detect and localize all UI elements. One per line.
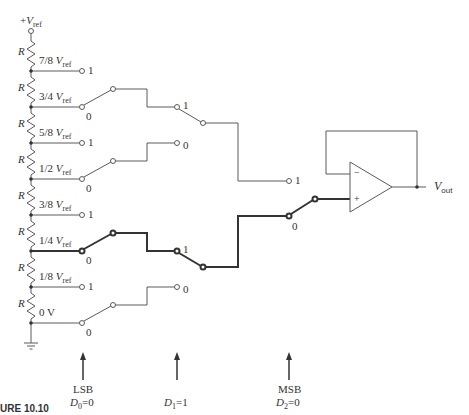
terminal-label: 0 <box>86 110 92 122</box>
tap-label-1-4: 1/4 Vref <box>39 234 71 248</box>
bit-d2-role: MSB <box>278 383 301 395</box>
terminal-label: 1 <box>88 64 94 76</box>
resistor-label: R <box>18 153 25 165</box>
tap-label-1-8: 1/8 Vref <box>39 270 71 284</box>
terminal-label: 0 <box>86 326 92 338</box>
resistor-label: R <box>18 297 25 309</box>
terminal-label: 0 <box>292 220 298 232</box>
vref-label: +Vref <box>20 14 42 28</box>
output-node <box>415 185 419 189</box>
resistor-label: R <box>18 261 25 273</box>
figure-caption: URE 10.10 <box>0 403 49 414</box>
terminal-label: 1 <box>295 174 301 186</box>
vref-terminal <box>29 29 34 34</box>
tap-label-3-8: 3/8 Vref <box>39 198 71 212</box>
switch-lsb-b <box>84 162 111 177</box>
terminal-label: 0 <box>183 139 189 151</box>
bit-d0-role: LSB <box>73 383 93 395</box>
opamp-minus-label: − <box>354 167 360 179</box>
resistor-label: R <box>18 81 25 93</box>
tap-label-1-2: 1/2 Vref <box>39 162 71 176</box>
switch-lsb-a <box>84 90 111 105</box>
terminal-label: 1 <box>183 243 189 255</box>
active-path <box>31 197 350 270</box>
tap-label-7-8: 7/8 Vref <box>39 54 71 68</box>
resistor-label: R <box>18 225 25 237</box>
tap-label-3-4: 3/4 Vref <box>39 90 71 104</box>
bit-d1-label: D1=1 <box>164 396 188 410</box>
terminal-label: 1 <box>88 280 94 292</box>
terminal-label: 0 <box>86 182 92 194</box>
switch-lsb-d <box>84 306 111 321</box>
terminal-label: 1 <box>183 99 189 111</box>
resistor-string <box>27 38 35 343</box>
ground-icon <box>24 343 38 349</box>
vout-label: Vout <box>434 180 452 194</box>
opamp-plus-label: + <box>354 193 360 205</box>
tap-label-5-8: 5/8 Vref <box>39 126 71 140</box>
bit-d2-label: D2=0 <box>276 396 300 410</box>
terminal-label: 0 <box>183 283 189 295</box>
terminal-label: 1 <box>88 208 94 220</box>
tap-label-0v: 0 V <box>39 306 55 318</box>
terminal-label: 0 <box>86 254 92 266</box>
tap-nodes <box>29 69 33 325</box>
bit-d0-label: D0=0 <box>70 396 94 410</box>
resistor-label: R <box>18 45 25 57</box>
terminal-label: 1 <box>88 136 94 148</box>
resistor-label: R <box>18 117 25 129</box>
resistor-label: R <box>18 189 25 201</box>
